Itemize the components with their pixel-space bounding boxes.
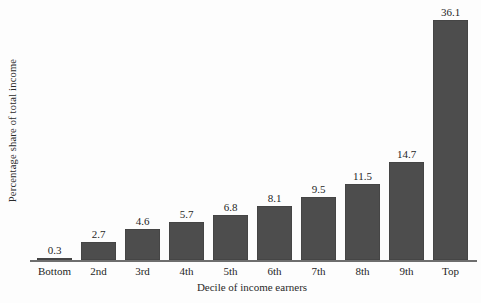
x-axis-tick-labels: Bottom2nd3rd4th5th6th7th8th9thTop xyxy=(30,263,474,281)
bar-group: 14.7 xyxy=(389,8,424,260)
x-tick-label: Top xyxy=(421,263,481,279)
bar xyxy=(257,206,292,260)
bar-group: 6.8 xyxy=(213,8,248,260)
bar-value-label: 36.1 xyxy=(441,6,460,18)
bar-value-label: 6.8 xyxy=(224,201,238,213)
bar-value-label: 8.1 xyxy=(268,192,282,204)
bar-value-label: 0.3 xyxy=(48,244,62,256)
bar-group: 11.5 xyxy=(345,8,380,260)
y-axis-title: Percentage share of total income xyxy=(0,0,26,260)
bar-chart: Percentage share of total income 0.32.74… xyxy=(0,0,481,303)
bar xyxy=(433,20,468,260)
bar xyxy=(81,242,116,260)
bar xyxy=(345,184,380,260)
bar-value-label: 2.7 xyxy=(92,228,106,240)
bar-group: 5.7 xyxy=(169,8,204,260)
bar-group: 2.7 xyxy=(81,8,116,260)
bar-group: 0.3 xyxy=(37,8,72,260)
bar-value-label: 9.5 xyxy=(312,183,326,195)
bar-group: 9.5 xyxy=(301,8,336,260)
bar xyxy=(389,162,424,260)
bar xyxy=(125,229,160,260)
bar-group: 4.6 xyxy=(125,8,160,260)
bar-value-label: 4.6 xyxy=(136,215,150,227)
bar xyxy=(301,197,336,260)
bar-value-label: 11.5 xyxy=(353,170,372,182)
y-axis-title-text: Percentage share of total income xyxy=(8,58,19,201)
bar-value-label: 5.7 xyxy=(180,208,194,220)
bar-value-label: 14.7 xyxy=(397,148,416,160)
bar-group: 8.1 xyxy=(257,8,292,260)
bar-group: 36.1 xyxy=(433,8,468,260)
plot-area: 0.32.74.65.76.88.19.511.514.736.1 xyxy=(30,8,474,260)
x-axis-title: Decile of income earners xyxy=(30,281,474,293)
bar xyxy=(169,222,204,260)
x-axis-line xyxy=(30,260,477,262)
bar xyxy=(213,215,248,260)
